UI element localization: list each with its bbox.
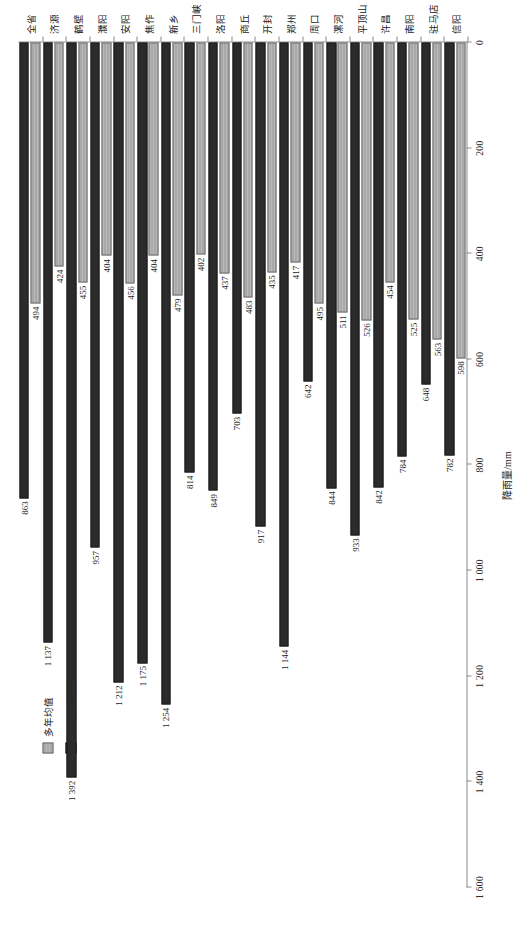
category-label: 平顶山 xyxy=(354,3,368,33)
category-axis-tick xyxy=(372,36,373,41)
category-axis-tick xyxy=(302,36,303,41)
bar-jun-sep-rainfall xyxy=(373,42,382,487)
category-label: 周口 xyxy=(306,13,320,33)
category-label: 许昌 xyxy=(377,13,391,33)
bar-multiyear-average xyxy=(219,42,228,273)
plot-area: 多年均值 6~9月降雨量 1 6001 4001 2001 0008006004… xyxy=(0,0,529,949)
bar-value-label: 525 xyxy=(408,322,418,336)
bar-jun-sep-rainfall xyxy=(66,42,75,777)
category-label: 南阳 xyxy=(401,13,415,33)
category-axis-tick xyxy=(136,36,137,41)
bar-multiyear-average xyxy=(456,42,465,358)
bar-value-label: 1 137 xyxy=(42,645,52,665)
category-label: 商丘 xyxy=(236,13,250,33)
value-axis-tick xyxy=(466,147,471,148)
bar-value-label: 957 xyxy=(90,550,100,564)
category-label: 开封 xyxy=(259,13,273,33)
bar-value-label: 402 xyxy=(195,257,205,271)
bar-value-label: 784 xyxy=(397,459,407,473)
bar-multiyear-average xyxy=(101,42,110,255)
bar-jun-sep-rainfall xyxy=(232,42,241,413)
bar-value-label: 863 xyxy=(19,501,29,515)
category-axis-tick xyxy=(325,36,326,41)
category-axis-tick xyxy=(443,36,444,41)
bar-multiyear-average xyxy=(54,42,63,266)
bar-value-label: 456 xyxy=(125,286,135,300)
category-label: 信阳 xyxy=(448,13,462,33)
category-axis-tick xyxy=(113,36,114,41)
bar-jun-sep-rainfall xyxy=(444,42,453,455)
bar-value-label: 437 xyxy=(219,276,229,290)
bar-value-label: 479 xyxy=(172,298,182,312)
bar-jun-sep-rainfall xyxy=(184,42,193,472)
bar-multiyear-average xyxy=(408,42,417,319)
category-axis-tick xyxy=(42,36,43,41)
bar-value-label: 1 392 xyxy=(66,780,76,800)
bar-multiyear-average xyxy=(30,42,39,303)
bar-multiyear-average xyxy=(337,42,346,312)
chart-legend: 多年均值 6~9月降雨量 xyxy=(40,681,86,753)
category-axis-tick xyxy=(89,36,90,41)
bar-value-label: 842 xyxy=(373,490,383,504)
category-axis-tick xyxy=(278,36,279,41)
bar-value-label: 648 xyxy=(420,387,430,401)
bar-jun-sep-rainfall xyxy=(397,42,406,456)
category-label: 驻马店 xyxy=(425,3,439,33)
value-axis-tick xyxy=(466,569,471,570)
category-label: 洛阳 xyxy=(212,13,226,33)
value-axis-tick-label: 1 000 xyxy=(474,559,484,582)
category-axis-tick xyxy=(396,36,397,41)
value-axis-tick-label: 400 xyxy=(474,246,484,261)
bar-jun-sep-rainfall xyxy=(113,42,122,682)
bar-value-label: 495 xyxy=(314,306,324,320)
bar-value-label: 417 xyxy=(290,265,300,279)
legend-label-multiyear-average: 多年均值 xyxy=(40,696,54,736)
bar-jun-sep-rainfall xyxy=(255,42,264,526)
bar-value-label: 1 175 xyxy=(137,666,147,686)
bar-multiyear-average xyxy=(78,42,87,282)
bar-multiyear-average xyxy=(314,42,323,303)
bar-jun-sep-rainfall xyxy=(326,42,335,488)
value-axis-tick-label: 1 600 xyxy=(474,876,484,899)
bar-multiyear-average xyxy=(196,42,205,254)
bar-value-label: 703 xyxy=(231,416,241,430)
value-axis-tick xyxy=(466,358,471,359)
category-axis-tick xyxy=(65,36,66,41)
bar-multiyear-average xyxy=(267,42,276,272)
category-axis-tick xyxy=(420,36,421,41)
value-axis-tick-label: 1 200 xyxy=(474,664,484,687)
category-axis-tick xyxy=(207,36,208,41)
bar-value-label: 782 xyxy=(444,458,454,472)
value-axis-tick-label: 0 xyxy=(474,39,484,44)
bar-value-label: 404 xyxy=(148,258,158,272)
bar-value-label: 917 xyxy=(255,529,265,543)
bar-jun-sep-rainfall xyxy=(19,42,28,498)
bar-value-label: 563 xyxy=(432,342,442,356)
value-axis-tick-label: 600 xyxy=(474,351,484,366)
bar-multiyear-average xyxy=(385,42,394,282)
legend-item-multiyear-average: 多年均值 xyxy=(40,681,54,753)
category-label: 新乡 xyxy=(165,13,179,33)
bar-value-label: 814 xyxy=(184,475,194,489)
bar-value-label: 1 144 xyxy=(279,649,289,669)
bar-multiyear-average xyxy=(172,42,181,295)
bar-multiyear-average xyxy=(148,42,157,255)
bar-value-label: 424 xyxy=(54,269,64,283)
bar-jun-sep-rainfall xyxy=(90,42,99,547)
bar-value-label: 483 xyxy=(243,300,253,314)
bar-value-label: 494 xyxy=(30,306,40,320)
category-label: 焦作 xyxy=(141,13,155,33)
category-label: 漯河 xyxy=(330,13,344,33)
category-label: 郑州 xyxy=(283,13,297,33)
category-axis-tick xyxy=(467,36,468,41)
value-axis-tick-label: 800 xyxy=(474,457,484,472)
bar-jun-sep-rainfall xyxy=(303,42,312,381)
bar-value-label: 849 xyxy=(208,493,218,507)
category-label: 济源 xyxy=(46,13,60,33)
bar-jun-sep-rainfall xyxy=(421,42,430,384)
bar-jun-sep-rainfall xyxy=(43,42,52,642)
category-axis-tick xyxy=(160,36,161,41)
bar-value-label: 454 xyxy=(384,285,394,299)
category-label: 安阳 xyxy=(117,13,131,33)
bar-multiyear-average xyxy=(125,42,134,283)
